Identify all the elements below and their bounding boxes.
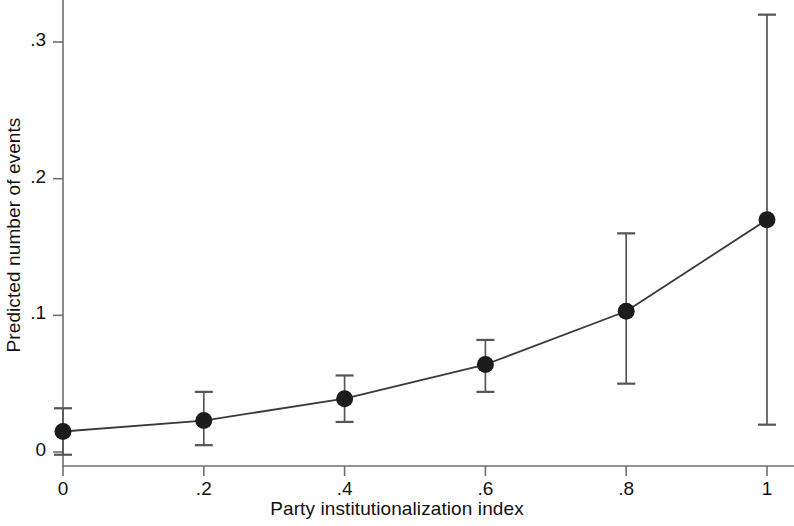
x-tick-label: .2 <box>184 478 224 500</box>
error-bars <box>54 15 776 455</box>
plot-area <box>0 0 794 526</box>
y-axis-ticks <box>53 42 63 452</box>
x-tick-label: .8 <box>606 478 646 500</box>
data-markers <box>55 211 776 440</box>
y-axis-title: Predicted number of events <box>0 0 28 470</box>
x-tick-label: .6 <box>465 478 505 500</box>
x-tick-label: 1 <box>747 478 787 500</box>
chart-figure: 0.1.2.3 0.2.4.6.81 Party institutionaliz… <box>0 0 794 526</box>
x-axis-ticks <box>63 466 767 476</box>
x-axis-title: Party institutionalization index <box>0 498 794 520</box>
x-tick-label: .4 <box>325 478 365 500</box>
series-line <box>63 220 767 432</box>
x-tick-label: 0 <box>43 478 83 500</box>
